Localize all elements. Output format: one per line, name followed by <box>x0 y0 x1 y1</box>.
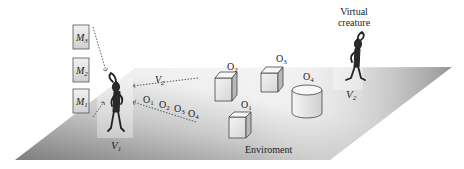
virtual-creature-caption-line1: Virtual <box>340 6 368 17</box>
memory-box-m3: M3 <box>73 25 89 49</box>
object-o2-cube <box>215 72 237 101</box>
object-o1-cube <box>229 112 251 138</box>
object-o4-cylinder <box>292 85 322 118</box>
v2-arm-raised <box>358 32 364 40</box>
object-o3-label: O3 <box>276 53 287 66</box>
diagram-canvas: M3 M2 M1 V2 O1 O2 O3 O4 V1 V2 Vi <box>0 0 464 169</box>
memory-box-m2: M2 <box>73 58 89 82</box>
v1-head <box>113 82 120 92</box>
memory-box-m1: M1 <box>73 89 89 113</box>
virtual-creature-caption-line2: creature <box>338 17 371 28</box>
object-o3-cube <box>261 67 283 92</box>
arrow-m3-to-v1 <box>93 27 106 71</box>
environment-label: Enviroment <box>245 144 292 155</box>
